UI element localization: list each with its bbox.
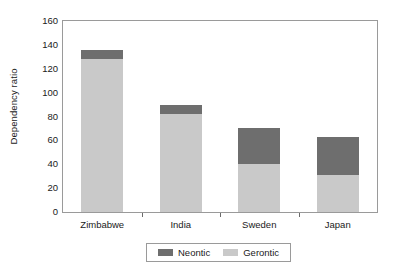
bar-segment-gerontic[interactable] [160, 114, 202, 212]
legend-swatch-gerontic [223, 249, 238, 256]
y-tick-label: 80 [24, 112, 58, 122]
legend-label: Gerontic [243, 248, 279, 258]
legend-swatch-neontic [158, 249, 173, 256]
y-tick-label: 120 [24, 64, 58, 74]
y-tick-label: 160 [24, 16, 58, 26]
dependency-ratio-bar-chart: Dependency ratio 020406080100120140160 Z… [0, 0, 408, 278]
bar-segment-gerontic[interactable] [317, 175, 359, 212]
legend-entry[interactable]: Gerontic [223, 248, 279, 258]
bar-segment-gerontic[interactable] [238, 164, 280, 212]
x-tick-label: Japan [325, 219, 351, 230]
legend-entry[interactable]: Neontic [158, 248, 210, 258]
y-tick-label: 100 [24, 88, 58, 98]
bar-segment-neontic[interactable] [81, 50, 123, 60]
bar-group[interactable] [317, 137, 359, 212]
y-tick-label: 140 [24, 40, 58, 50]
legend-label: Neontic [178, 248, 210, 258]
chart-legend: NeonticGerontic [146, 243, 291, 262]
y-tick-label: 40 [24, 160, 58, 170]
x-axis-tick-marks [62, 213, 378, 218]
bar-group[interactable] [160, 105, 202, 212]
bar-segment-neontic[interactable] [317, 137, 359, 175]
y-tick-label: 60 [24, 136, 58, 146]
x-tick-mark [299, 213, 300, 217]
bar-segment-neontic[interactable] [238, 128, 280, 164]
x-tick-label: India [170, 219, 191, 230]
bar-group[interactable] [238, 128, 280, 212]
bar-segment-neontic[interactable] [160, 105, 202, 115]
x-tick-label: Zimbabwe [80, 219, 124, 230]
bar-group[interactable] [81, 50, 123, 212]
y-axis-tick-labels: 020406080100120140160 [20, 20, 58, 213]
x-axis-tick-labels: ZimbabweIndiaSwedenJapan [62, 219, 378, 233]
bar-segment-gerontic[interactable] [81, 59, 123, 212]
y-tick-label: 0 [24, 207, 58, 217]
y-axis-title-text: Dependency ratio [8, 68, 19, 144]
bars-layer [63, 21, 377, 212]
x-tick-mark [142, 213, 143, 217]
y-tick-label: 20 [24, 183, 58, 193]
x-tick-label: Sweden [242, 219, 276, 230]
x-tick-mark [220, 213, 221, 217]
